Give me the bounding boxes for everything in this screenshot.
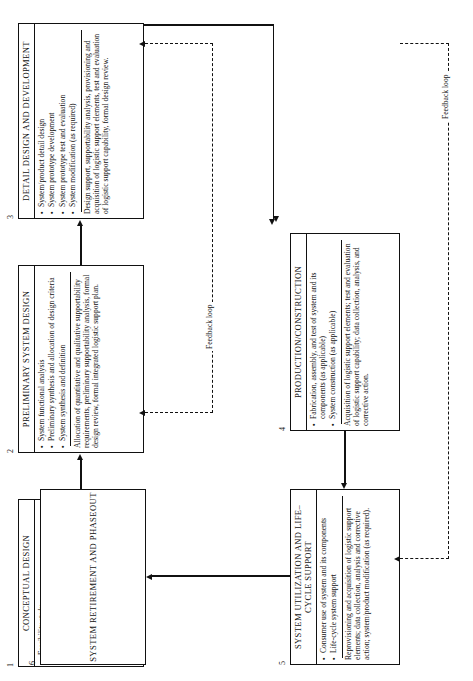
feedback-loop-upper-line bbox=[212, 43, 213, 413]
list-item: Preliminary synthesis and allocation of … bbox=[48, 270, 57, 448]
divider bbox=[70, 272, 71, 446]
bullet-list: Consumer use of system and its component… bbox=[320, 494, 339, 660]
list-item: System prototype development bbox=[48, 28, 57, 214]
box-detail-design-and-development[interactable]: DETAIL DESIGN AND DEVELOPMENT System/pro… bbox=[18, 23, 144, 219]
box-number: 1 bbox=[6, 663, 15, 667]
arrowhead-right bbox=[77, 220, 83, 226]
arrowhead-up bbox=[394, 556, 400, 562]
list-item: System/product detail design bbox=[38, 28, 47, 214]
bullet-list: System/product detail design System prot… bbox=[38, 28, 78, 214]
list-item: System prototype test and evaluation bbox=[59, 28, 68, 214]
box-title: SYSTEM RETIREMENT AND PHASEOUT bbox=[41, 490, 145, 664]
arrowhead-left bbox=[269, 219, 275, 225]
list-item: Fabrication, assembly, and test of syste… bbox=[310, 238, 328, 426]
feedback-loop-lower-riser-right bbox=[400, 43, 449, 44]
arrowhead-right bbox=[77, 454, 83, 460]
connector-5-to-6 bbox=[152, 575, 290, 577]
box-body: System functional analysis Preliminary s… bbox=[35, 266, 103, 452]
box-note: Design support, supportability analysis,… bbox=[84, 28, 111, 214]
divider bbox=[81, 30, 82, 212]
list-item: System functional analysis bbox=[38, 270, 47, 448]
list-item: System construction (as applicable) bbox=[329, 238, 338, 426]
feedback-loop-lower-riser-left bbox=[400, 558, 449, 559]
box-number: 3 bbox=[6, 215, 15, 219]
list-item: System synthesis and definition bbox=[59, 270, 68, 448]
divider bbox=[341, 240, 342, 424]
box-body: System/product detail design System prot… bbox=[35, 24, 113, 218]
connector-3-to-4 bbox=[273, 24, 275, 219]
feedback-loop-upper-label: Feedback loop bbox=[205, 303, 214, 352]
box-title: DETAIL DESIGN AND DEVELOPMENT bbox=[19, 24, 35, 218]
box-production-construction[interactable]: PRODUCTION/CONSTRUCTION Fabrication, ass… bbox=[290, 233, 400, 431]
feedback-loop-upper-riser-right bbox=[145, 43, 213, 44]
connector-2-to-3 bbox=[80, 225, 82, 265]
arrowhead-up bbox=[139, 410, 145, 416]
box-note: Reprovisioning and acquisition of logist… bbox=[345, 494, 372, 660]
box-title: SYSTEM UTILIZATION AND LIFE–CYCLE SUPPOR… bbox=[291, 490, 317, 664]
feedback-loop-lower-label: Feedback loop bbox=[441, 73, 450, 122]
divider bbox=[342, 496, 343, 658]
rotated-diagram: CONCEPTUAL DESIGN Feasibility study Oper… bbox=[0, 0, 473, 681]
list-item: System modification (as required) bbox=[69, 28, 78, 214]
box-system-retirement-and-phaseout[interactable]: SYSTEM RETIREMENT AND PHASEOUT bbox=[40, 489, 146, 665]
box-note: Allocation of quantitative and qualitati… bbox=[74, 270, 101, 448]
box-number: 6 bbox=[28, 661, 37, 665]
bullet-list: System functional analysis Preliminary s… bbox=[38, 270, 68, 448]
figure-canvas: CONCEPTUAL DESIGN Feasibility study Oper… bbox=[0, 0, 473, 681]
connector-3-down bbox=[144, 24, 274, 26]
bullet-list: Fabrication, assembly, and test of syste… bbox=[310, 238, 338, 426]
box-number: 4 bbox=[278, 427, 287, 431]
list-item: Consumer use of system and its component… bbox=[320, 494, 329, 660]
box-number: 5 bbox=[278, 661, 287, 665]
arrowhead-up bbox=[139, 41, 145, 47]
arrowhead-up bbox=[146, 574, 152, 580]
list-item: Life-cycle system support bbox=[330, 494, 339, 660]
box-preliminary-system-design[interactable]: PRELIMINARY SYSTEM DESIGN System functio… bbox=[18, 265, 144, 453]
box-note: Acquisition of logistic support elements… bbox=[344, 238, 371, 426]
box-system-utilization-and-life-cycle-support[interactable]: SYSTEM UTILIZATION AND LIFE–CYCLE SUPPOR… bbox=[290, 489, 400, 665]
box-title: PRELIMINARY SYSTEM DESIGN bbox=[19, 266, 35, 452]
box-body: Consumer use of system and its component… bbox=[317, 490, 374, 664]
box-title: CONCEPTUAL DESIGN bbox=[19, 500, 35, 666]
box-title: PRODUCTION/CONSTRUCTION bbox=[291, 234, 307, 430]
feedback-loop-upper-riser-left bbox=[145, 412, 213, 413]
box-number: 2 bbox=[6, 449, 15, 453]
box-body: Fabrication, assembly, and test of syste… bbox=[307, 234, 373, 430]
connector-4-to-5 bbox=[344, 431, 346, 483]
